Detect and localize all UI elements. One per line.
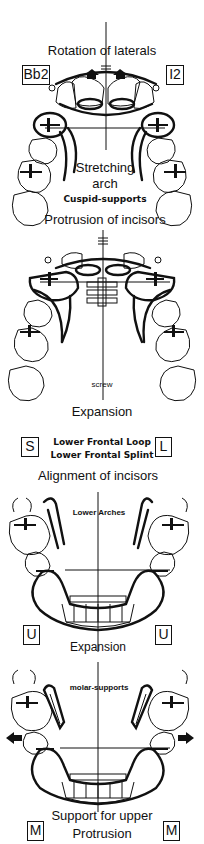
label-expansion-lower: Expansion [0, 640, 196, 654]
label-protrusion: Protrusion [0, 826, 204, 841]
label-lower-arches: Lower Arches [0, 508, 198, 517]
label-box-bb2: Bb2 [22, 65, 50, 85]
label-molar-supports: molar-supports [0, 683, 198, 692]
label-arch: arch [0, 176, 204, 191]
label-lower-frontal-splint: Lower Frontal Splint [0, 450, 204, 460]
label-protrusion-of-incisors: Protrusion of incisors [0, 212, 204, 227]
label-lower-frontal-loop: Lower Frontal Loop [0, 437, 204, 447]
expansion-screw-icon [87, 278, 117, 306]
label-cuspid-supports: Cuspid-supports [0, 194, 204, 204]
label-screw: screw [0, 380, 204, 389]
label-alignment-of-incisors: Alignment of incisors [0, 468, 196, 483]
label-expansion-upper: Expansion [0, 404, 204, 419]
label-support-for-upper: Support for upper [0, 808, 204, 823]
title-rotation-of-laterals: Rotation of laterals [0, 43, 204, 58]
label-box-i2: I2 [166, 65, 184, 85]
label-stretching: Stretching [0, 160, 204, 175]
